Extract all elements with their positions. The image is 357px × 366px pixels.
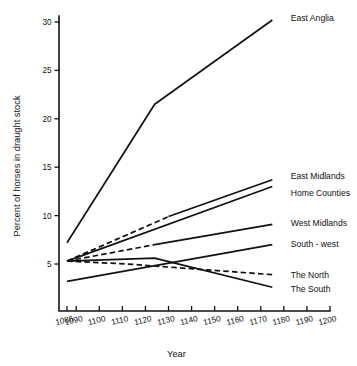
x-tick-label: 1150: [202, 314, 222, 327]
series-line-west-midlands: [155, 224, 273, 244]
series-labels: East AngliaEast MidlandsHome CountiesWes…: [291, 13, 350, 294]
x-tick-label: 1180: [272, 314, 292, 327]
series-line-east-anglia: [67, 20, 272, 243]
series-label-west-midlands: West Midlands: [291, 218, 347, 228]
y-tick-label: 20: [42, 115, 52, 124]
y-tick-label: 30: [42, 18, 52, 27]
series-label-the-south: The South: [291, 284, 331, 294]
x-tick-label: 1120: [133, 314, 153, 327]
x-tick-label: 1110: [110, 314, 129, 327]
chart-series: [67, 20, 272, 287]
line-chart: 51015202530 1086109011001110112011301140…: [0, 0, 357, 366]
x-tick-label: 1190: [295, 314, 315, 327]
series-label-home-counties: Home Counties: [291, 188, 350, 198]
chart-container: 51015202530 1086109011001110112011301140…: [0, 0, 357, 366]
x-tick-label: 1140: [179, 314, 199, 327]
series-label-south-west: South - west: [291, 239, 339, 249]
series-line-east-midlands: [169, 180, 273, 217]
x-tick-label: 1100: [87, 314, 107, 327]
x-axis-ticks: 1086109011001110112011301140115011601170…: [54, 306, 337, 327]
y-tick-label: 5: [47, 260, 52, 269]
x-axis-title: Year: [167, 349, 186, 359]
x-tick-label: 1130: [156, 314, 176, 327]
series-label-east-midlands: East Midlands: [291, 171, 345, 181]
x-tick-label: 1170: [249, 314, 269, 327]
y-tick-label: 15: [42, 163, 52, 172]
x-tick-label: 1160: [225, 314, 245, 327]
y-tick-label: 10: [42, 212, 52, 221]
y-tick-label: 25: [42, 66, 52, 75]
series-line-east-midlands-dashed: [67, 217, 169, 262]
x-tick-label: 1200: [317, 314, 337, 327]
axis-lines: [59, 16, 330, 311]
y-axis-title: Percent of horses in draught stock: [12, 95, 22, 236]
series-label-east-anglia: East Anglia: [291, 13, 334, 23]
chart-axes: [59, 16, 330, 311]
y-axis-ticks: 51015202530: [42, 18, 59, 269]
series-label-the-north: The North: [291, 270, 329, 280]
